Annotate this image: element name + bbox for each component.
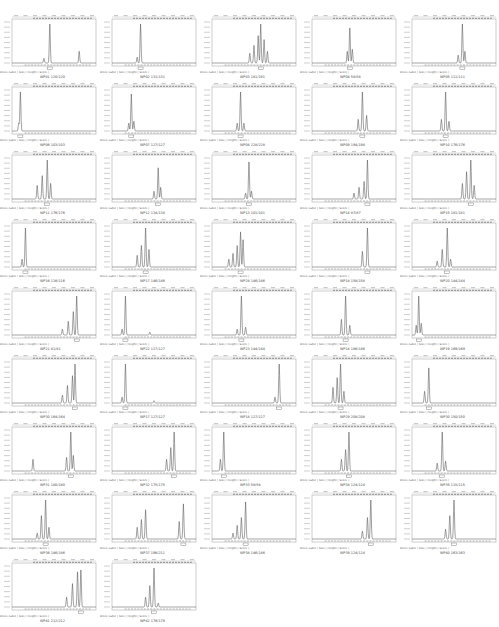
- allele-legend: Allele Label | Size | Height | Score |: [200, 207, 249, 210]
- allele-legend: Allele Label | Size | Height | Score |: [200, 275, 249, 278]
- electropherogram-panel: Allele Label | Size | Height | Score |WP…: [100, 355, 198, 423]
- sample-label: WP18 158/158: [340, 279, 365, 283]
- electropherogram-panel: Allele Label | Size | Height | Score |WP…: [200, 15, 298, 83]
- electropherogram-panel: Allele Label | Size | Height | Score |WP…: [100, 15, 198, 83]
- allele-marker: [460, 67, 465, 70]
- electropherogram-panel: Allele Label | Size | Height | Score |WP…: [100, 83, 198, 151]
- sample-label: WP40 163/163: [440, 551, 465, 555]
- allele-legend: Allele Label | Size | Height | Score |: [300, 139, 349, 142]
- sample-label: WP13 101/101: [240, 211, 265, 215]
- allele-marker: [156, 203, 161, 206]
- sample-label: WP09 194/194: [340, 143, 365, 147]
- sample-label: WP22 127/127: [140, 347, 165, 351]
- electropherogram-panel: Allele Label | Size | Height | Score |WP…: [300, 355, 398, 423]
- allele-legend: Allele Label | Size | Height | Score |: [300, 275, 349, 278]
- allele-legend: Allele Label | Size | Height | Score |: [0, 207, 49, 210]
- sample-label: WP17 146/146: [140, 279, 165, 283]
- allele-legend: Allele Label | Size | Height | Score |: [100, 479, 149, 482]
- sample-label: WP21 81/81: [40, 347, 61, 351]
- allele-marker: [129, 135, 134, 138]
- electropherogram-panel: Allele Label | Size | Height | Score |WP…: [0, 15, 98, 83]
- allele-marker: [47, 67, 52, 70]
- allele-legend: Allele Label | Size | Height | Score |: [0, 547, 49, 550]
- electropherogram-panel: Allele Label | Size | Height | Score |WP…: [300, 219, 398, 287]
- sample-label: WP19 169/169: [440, 347, 465, 351]
- sample-label: WP30 150/150: [440, 415, 465, 419]
- electropherogram-grid: Allele Label | Size | Height | Score |WP…: [0, 0, 499, 627]
- allele-marker: [365, 271, 370, 274]
- sample-label: WP16 116/116: [40, 279, 65, 283]
- allele-marker: [365, 203, 370, 206]
- sample-label: WP06 103/103: [40, 143, 65, 147]
- allele-marker: [239, 339, 244, 342]
- electropherogram-panel: Allele Label | Size | Height | Score |WP…: [200, 287, 298, 355]
- electropherogram-panel: Allele Label | Size | Height | Score |WP…: [100, 423, 198, 491]
- electropherogram-panel: Allele Label | Size | Height | Score |WP…: [0, 559, 98, 627]
- allele-legend: Allele Label | Size | Height | Score |: [0, 71, 49, 74]
- allele-legend: Allele Label | Size | Height | Score |: [200, 71, 249, 74]
- allele-legend: Allele Label | Size | Height | Score |: [400, 411, 449, 414]
- allele-legend: Allele Label | Size | Height | Score |: [0, 343, 49, 346]
- electropherogram-panel: Allele Label | Size | Height | Score |WP…: [400, 491, 498, 559]
- electropherogram-panel: Allele Label | Size | Height | Score |WP…: [300, 423, 398, 491]
- allele-legend: Allele Label | Size | Height | Score |: [0, 139, 49, 142]
- allele-legend: Allele Label | Size | Height | Score |: [200, 411, 249, 414]
- allele-marker: [445, 271, 450, 274]
- sample-label: WP28 146/146: [240, 279, 265, 283]
- allele-marker: [221, 475, 226, 478]
- allele-legend: Allele Label | Size | Height | Score |: [300, 411, 349, 414]
- allele-marker: [181, 543, 186, 546]
- allele-marker: [238, 135, 243, 138]
- allele-marker: [68, 475, 73, 478]
- allele-marker: [78, 611, 83, 614]
- electropherogram-panel: Allele Label | Size | Height | Score |WP…: [300, 15, 398, 83]
- electropherogram-panel: Allele Label | Size | Height | Score |WP…: [0, 423, 98, 491]
- sample-label: WP03 181/191: [240, 75, 265, 79]
- sample-label: WP42 179/179: [140, 619, 165, 623]
- electropherogram-panel: Allele Label | Size | Height | Score |WP…: [300, 151, 398, 219]
- allele-marker: [172, 475, 177, 478]
- allele-legend: Allele Label | Size | Height | Score |: [100, 71, 149, 74]
- allele-legend: Allele Label | Size | Height | Score |: [300, 343, 349, 346]
- allele-marker: [338, 407, 343, 410]
- sample-label: WP23 144/144: [240, 347, 265, 351]
- allele-marker: [23, 271, 28, 274]
- allele-marker: [243, 543, 248, 546]
- electropherogram-panel: Allele Label | Size | Height | Score |WP…: [0, 219, 98, 287]
- sample-label: WP36 186/186: [40, 551, 65, 555]
- sample-label: WP34 124/124: [340, 483, 365, 487]
- allele-legend: Allele Label | Size | Height | Score |: [100, 411, 149, 414]
- allele-marker: [18, 135, 23, 138]
- electropherogram-panel: Allele Label | Size | Height | Score |WP…: [400, 423, 498, 491]
- allele-marker: [123, 407, 128, 410]
- electropherogram-panel: Allele Label | Size | Height | Score |WP…: [200, 491, 298, 559]
- electropherogram-panel: Allele Label | Size | Height | Score |WP…: [300, 287, 398, 355]
- allele-marker: [346, 475, 351, 478]
- allele-legend: Allele Label | Size | Height | Score |: [400, 547, 449, 550]
- allele-legend: Allele Label | Size | Height | Score |: [400, 139, 449, 142]
- sample-label: WP12 134/134: [140, 211, 165, 215]
- sample-label: WP18 127/127: [240, 415, 265, 419]
- allele-marker: [277, 407, 282, 410]
- allele-marker: [123, 339, 128, 342]
- electropherogram-panel: Allele Label | Size | Height | Score |WP…: [0, 355, 98, 423]
- allele-legend: Allele Label | Size | Height | Score |: [100, 207, 149, 210]
- allele-legend: Allele Label | Size | Height | Score |: [300, 547, 349, 550]
- sample-label: WP31 180/180: [40, 483, 65, 487]
- allele-legend: Allele Label | Size | Height | Score |: [200, 479, 249, 482]
- allele-marker: [45, 203, 50, 206]
- electropherogram-panel: Allele Label | Size | Height | Score |WP…: [400, 15, 498, 83]
- electropherogram-panel: Allele Label | Size | Height | Score |WP…: [100, 219, 198, 287]
- sample-label: WP04 58/58: [340, 75, 361, 79]
- sample-label: WP30 164/164: [40, 415, 65, 419]
- sample-label: WP07 127/127: [140, 143, 165, 147]
- electropherogram-panel: Allele Label | Size | Height | Score |WP…: [400, 219, 498, 287]
- electropherogram-panel: Allele Label | Size | Height | Score |WP…: [0, 83, 98, 151]
- allele-legend: Allele Label | Size | Height | Score |: [0, 479, 49, 482]
- electropherogram-panel: Allele Label | Size | Height | Score |WP…: [200, 423, 298, 491]
- allele-marker: [468, 203, 473, 206]
- allele-legend: Allele Label | Size | Height | Score |: [0, 615, 49, 618]
- allele-legend: Allele Label | Size | Height | Score |: [100, 343, 149, 346]
- allele-marker: [426, 407, 431, 410]
- allele-marker: [258, 67, 263, 70]
